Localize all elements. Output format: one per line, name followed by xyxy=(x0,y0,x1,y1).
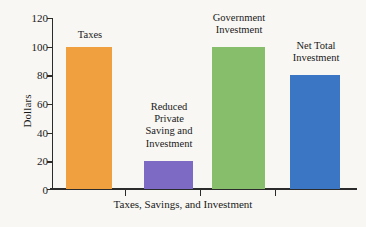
y-tick-label-40: 40 xyxy=(20,128,48,139)
y-tick-mark-100 xyxy=(47,47,53,48)
bar-label-taxes: Taxes xyxy=(56,29,124,41)
y-tick-label-20: 20 xyxy=(20,156,48,167)
y-tick-mark-20 xyxy=(47,161,53,162)
y-tick-mark-80 xyxy=(47,75,53,76)
x-tick-mark-2 xyxy=(200,190,201,196)
y-tick-label-60: 60 xyxy=(20,99,48,110)
x-tick-mark-3 xyxy=(275,190,276,196)
bar-label-net-total-investment: Net Total Investment xyxy=(280,40,352,64)
y-axis-tick-labels: 120 100 80 60 40 20 0 xyxy=(18,0,48,227)
x-tick-mark-1 xyxy=(125,190,126,196)
plot-area: Taxes Reduced Private Saving and Investm… xyxy=(52,18,352,190)
bar-chart: Dollars 120 100 80 60 40 20 0 Taxes Redu… xyxy=(0,0,366,227)
y-tick-label-120: 120 xyxy=(20,13,48,24)
y-tick-label-80: 80 xyxy=(20,70,48,81)
y-tick-label-100: 100 xyxy=(20,42,48,53)
y-tick-label-0: 0 xyxy=(20,185,48,196)
bar-reduced-private-saving-and-investment xyxy=(144,161,193,190)
y-tick-mark-0 xyxy=(47,189,53,190)
bar-taxes xyxy=(66,47,112,190)
bar-label-government-investment: Government Investment xyxy=(199,12,279,36)
bar-label-reduced-private-saving-and-investment: Reduced Private Saving and Investment xyxy=(130,101,208,150)
bar-government-investment xyxy=(212,47,265,190)
y-tick-mark-120 xyxy=(47,18,53,19)
x-axis-title: Taxes, Savings, and Investment xyxy=(0,198,366,210)
y-tick-mark-60 xyxy=(47,104,53,105)
bar-net-total-investment xyxy=(290,75,340,189)
y-tick-mark-40 xyxy=(47,133,53,134)
